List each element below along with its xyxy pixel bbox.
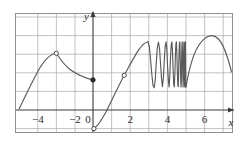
y-axis-label: y: [83, 10, 89, 22]
open-circle-below-origin-marker: [92, 127, 96, 131]
x-tick-label-2: 2: [127, 113, 133, 125]
x-tick-label-zero: 0: [85, 113, 91, 125]
x-tick-label-6: 6: [202, 113, 208, 125]
x-axis-label: x: [228, 116, 234, 128]
open-circle-peak-marker: [54, 51, 58, 55]
graph-figure: −4 −2 0 2 4 6 x y: [0, 0, 248, 146]
x-tick-label-minus2: −2: [69, 113, 81, 125]
open-circle-x2-marker: [122, 73, 126, 77]
filled-dot-marker: [91, 78, 95, 82]
x-tick-label-minus4: −4: [32, 113, 44, 125]
x-tick-label-4: 4: [165, 113, 171, 125]
graph-svg: −4 −2 0 2 4 6 x y: [0, 0, 248, 146]
